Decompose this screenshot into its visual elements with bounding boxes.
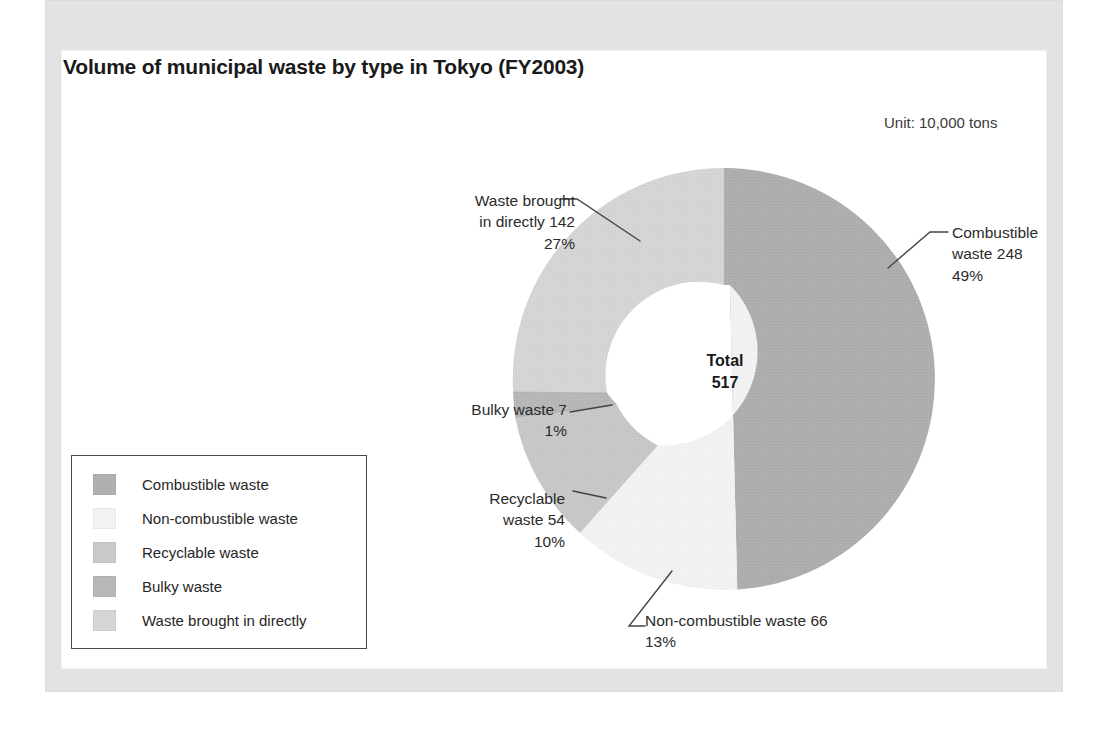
legend-item-waste-brought-in-directly: Waste brought in directly (72, 603, 366, 637)
legend-item-non-combustible-waste: Non-combustible waste (72, 501, 366, 535)
legend-swatch-recyclable-waste (93, 542, 116, 563)
legend-label-waste-brought-in-directly: Waste brought in directly (142, 612, 307, 629)
legend-item-recyclable-waste: Recyclable waste (72, 535, 366, 569)
legend-label-non-combustible-waste: Non-combustible waste (142, 510, 298, 527)
callout-bulky-waste: Bulky waste 7 1% (352, 399, 567, 442)
center-total-value: 517 (645, 372, 805, 394)
chart-title: Volume of municipal waste by type in Tok… (63, 55, 584, 79)
donut-center-total: Total 517 (645, 350, 805, 393)
legend-swatch-non-combustible-waste (93, 508, 116, 529)
center-total-label: Total (706, 352, 743, 369)
legend-item-bulky-waste: Bulky waste (72, 569, 366, 603)
legend-item-combustible-waste: Combustible waste (72, 467, 366, 501)
callout-recyclable-waste: Recyclable waste 54 10% (355, 488, 565, 552)
callout-combustible-waste: Combustible waste 248 49% (952, 222, 1102, 286)
unit-note: Unit: 10,000 tons (884, 114, 997, 131)
legend: Combustible waste Non-combustible waste … (71, 455, 367, 649)
legend-list: Combustible waste Non-combustible waste … (72, 456, 366, 648)
callout-non-combustible-waste: Non-combustible waste 66 13% (645, 610, 975, 653)
legend-label-combustible-waste: Combustible waste (142, 476, 269, 493)
legend-swatch-waste-brought-in-directly (93, 610, 116, 631)
legend-label-bulky-waste: Bulky waste (142, 578, 222, 595)
callout-waste-brought-in-directly: Waste brought in directly 142 27% (355, 190, 575, 254)
legend-label-recyclable-waste: Recyclable waste (142, 544, 259, 561)
legend-swatch-bulky-waste (93, 576, 116, 597)
legend-swatch-combustible-waste (93, 474, 116, 495)
